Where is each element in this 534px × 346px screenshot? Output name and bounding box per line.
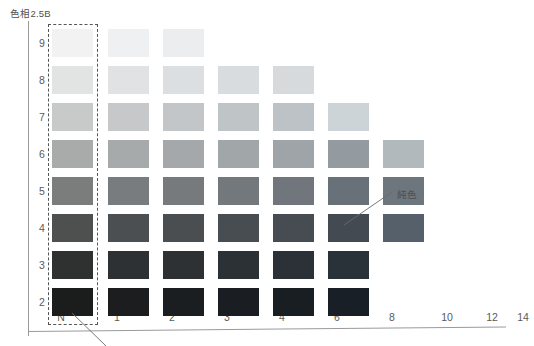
swatch-v2-cN	[52, 288, 93, 316]
swatch-v8-c1	[108, 66, 149, 94]
swatch-v5-c3	[218, 177, 259, 205]
swatch-v7-c1	[108, 103, 149, 131]
swatch-v5-c1	[108, 177, 149, 205]
swatch-v9-cN	[52, 29, 93, 57]
swatch-v2-c6	[328, 288, 369, 316]
swatch-v4-c3	[218, 214, 259, 242]
swatch-v3-c1	[108, 251, 149, 279]
swatch-v2-c3	[218, 288, 259, 316]
swatch-v5-c4	[273, 177, 314, 205]
swatch-v8-c3	[218, 66, 259, 94]
swatch-v4-c6	[328, 214, 369, 242]
swatch-v3-c6	[328, 251, 369, 279]
swatch-v4-c2	[163, 214, 204, 242]
swatch-v2-c4	[273, 288, 314, 316]
swatch-v4-cN	[52, 214, 93, 242]
swatch-v3-c3	[218, 251, 259, 279]
swatch-v5-cN	[52, 177, 93, 205]
swatch-v4-c1	[108, 214, 149, 242]
swatch-v6-c6	[328, 140, 369, 168]
swatch-v2-c2	[163, 288, 204, 316]
swatch-v5-c2	[163, 177, 204, 205]
swatch-v6-c3	[218, 140, 259, 168]
swatch-v8-c2	[163, 66, 204, 94]
swatch-v6-c4	[273, 140, 314, 168]
swatch-v6-c8	[383, 140, 424, 168]
swatch-v6-c1	[108, 140, 149, 168]
swatch-v9-c2	[163, 29, 204, 57]
swatch-v2-c1	[108, 288, 149, 316]
swatch-v5-c6	[328, 177, 369, 205]
swatch-v3-cN	[52, 251, 93, 279]
swatch-v7-c4	[273, 103, 314, 131]
swatch-v6-cN	[52, 140, 93, 168]
swatch-v6-c2	[163, 140, 204, 168]
swatch-v7-c3	[218, 103, 259, 131]
swatch-v8-cN	[52, 66, 93, 94]
swatch-v7-c6	[328, 103, 369, 131]
swatch-v3-c4	[273, 251, 314, 279]
swatch-v8-c4	[273, 66, 314, 94]
swatch-v3-c2	[163, 251, 204, 279]
swatch-v7-cN	[52, 103, 93, 131]
swatch-v4-c4	[273, 214, 314, 242]
pure-color-annotation-label: 純色	[397, 187, 417, 201]
swatch-v9-c1	[108, 29, 149, 57]
swatch-v4-c8	[383, 214, 424, 242]
swatch-v7-c2	[163, 103, 204, 131]
